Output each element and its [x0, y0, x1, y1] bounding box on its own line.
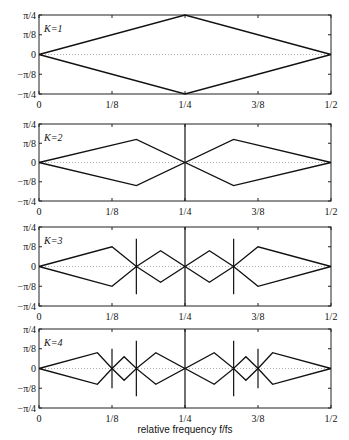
x-tick-label: 0: [37, 99, 42, 110]
x-tick-label: 1/8: [106, 413, 119, 424]
y-tick-label: −π/8: [18, 69, 36, 80]
y-tick-label: π/4: [23, 119, 36, 130]
y-tick-label: −π/4: [18, 301, 36, 312]
x-tick-label: 3/8: [252, 311, 265, 322]
x-tick-label: 0: [37, 413, 42, 424]
y-tick-label: π/4: [23, 10, 36, 21]
x-tick-label: 1/8: [106, 311, 119, 322]
y-tick-label: 0: [31, 49, 36, 60]
x-tick-label: 3/8: [252, 99, 265, 110]
x-axis-label: relative frequency f/fs: [137, 424, 232, 435]
series-lower: [39, 55, 331, 95]
y-tick-label: π/8: [23, 241, 36, 252]
y-tick-label: −π/8: [18, 383, 36, 394]
y-tick-label: 0: [31, 363, 36, 374]
y-tick-label: −π/4: [18, 89, 36, 100]
x-tick-label: 3/8: [252, 206, 265, 217]
y-tick-label: −π/4: [18, 403, 36, 414]
x-tick-label: 1/2: [325, 99, 338, 110]
y-tick-label: π/4: [23, 324, 36, 335]
panel-k-label: K=1: [43, 23, 62, 34]
panel-k-label: K=3: [43, 235, 62, 246]
y-tick-label: π/4: [23, 222, 36, 233]
y-tick-label: 0: [31, 157, 36, 168]
y-tick-label: π/8: [23, 29, 36, 40]
x-tick-label: 1/4: [179, 206, 192, 217]
panel-1: π/4π/80−π/8−π/401/81/43/81/2K=1: [18, 10, 338, 111]
x-tick-label: 1/8: [106, 99, 119, 110]
y-tick-label: π/8: [23, 343, 36, 354]
x-tick-label: 1/2: [325, 311, 338, 322]
y-tick-label: −π/4: [18, 196, 36, 207]
panel-3: π/4π/80−π/8−π/401/81/43/81/2K=3: [18, 222, 338, 323]
y-tick-label: 0: [31, 261, 36, 272]
panel-k-label: K=2: [43, 132, 62, 143]
figure: π/4π/80−π/8−π/401/81/43/81/2K=1π/4π/80−π…: [0, 0, 349, 440]
axes-frame: [39, 15, 331, 94]
x-tick-label: 1/4: [179, 99, 192, 110]
x-tick-label: 1/4: [179, 311, 192, 322]
series-upper: [39, 15, 331, 55]
x-tick-label: 1/8: [106, 206, 119, 217]
panel-2: π/4π/80−π/8−π/401/81/43/81/2K=2: [18, 119, 338, 218]
x-tick-label: 1/2: [325, 413, 338, 424]
y-tick-label: π/8: [23, 138, 36, 149]
x-tick-label: 1/2: [325, 206, 338, 217]
x-tick-label: 0: [37, 206, 42, 217]
y-tick-label: −π/8: [18, 281, 36, 292]
panel-4: π/4π/80−π/8−π/401/81/43/81/2K=4relative …: [18, 324, 338, 436]
x-tick-label: 1/4: [179, 413, 192, 424]
x-tick-label: 3/8: [252, 413, 265, 424]
y-tick-label: −π/8: [18, 176, 36, 187]
x-tick-label: 0: [37, 311, 42, 322]
panel-k-label: K=4: [43, 337, 62, 348]
